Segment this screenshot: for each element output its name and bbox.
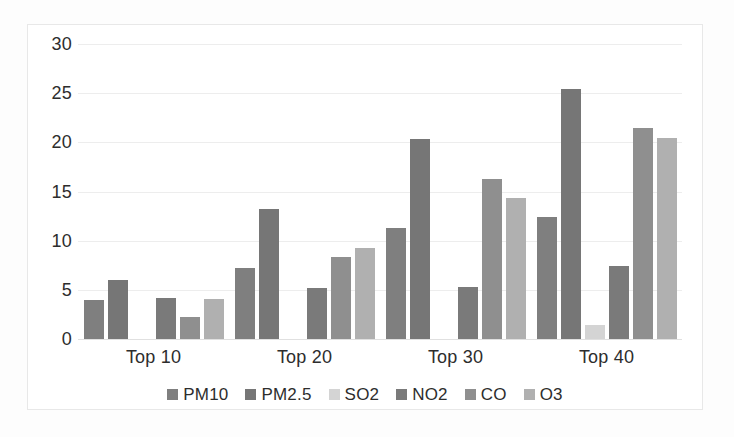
y-tick-label-10: 10 (26, 232, 72, 250)
bar-pm25-top-40 (561, 89, 581, 339)
bar-o3-top-20 (355, 248, 375, 339)
legend-item-o3[interactable]: O3 (524, 386, 563, 403)
bar-pm10-top-30 (386, 228, 406, 339)
bar-o3-top-10 (204, 299, 224, 339)
y-tick-label-0: 0 (26, 330, 72, 348)
legend-swatch-icon-pm10 (167, 389, 178, 400)
bar-no2-top-10 (156, 298, 176, 339)
legend-label: PM10 (183, 386, 228, 403)
legend-label: O3 (540, 386, 563, 403)
bar-so2-top-40 (585, 325, 605, 339)
x-axis-label-top-20: Top 20 (229, 347, 380, 368)
chart-legend: PM10PM2.5SO2NO2COO3 (27, 381, 703, 407)
bar-co-top-30 (482, 179, 502, 339)
legend-item-so2[interactable]: SO2 (329, 386, 380, 403)
x-axis-label-top-10: Top 10 (78, 347, 229, 368)
bar-o3-top-30 (506, 198, 526, 339)
y-tick-label-20: 20 (26, 133, 72, 151)
y-axis: 051015202530 (22, 44, 72, 339)
bar-group-top-30 (386, 44, 526, 339)
legend-label: NO2 (412, 386, 448, 403)
legend-item-co[interactable]: CO (465, 386, 507, 403)
y-tick-label-30: 30 (26, 35, 72, 53)
bar-co-top-10 (180, 317, 200, 339)
bar-no2-top-40 (609, 266, 629, 339)
legend-swatch-icon-co (465, 389, 476, 400)
bar-co-top-40 (633, 128, 653, 339)
bar-no2-top-30 (458, 287, 478, 339)
bar-pm10-top-10 (84, 300, 104, 339)
legend-swatch-icon-no2 (396, 389, 407, 400)
plot-area (78, 44, 682, 339)
y-tick-label-15: 15 (26, 183, 72, 201)
legend-label: CO (481, 386, 507, 403)
legend-label: SO2 (345, 386, 380, 403)
bar-pm10-top-20 (235, 268, 255, 339)
bar-pm25-top-10 (108, 280, 128, 339)
legend-swatch-icon-so2 (329, 389, 340, 400)
x-axis-label-top-40: Top 40 (531, 347, 682, 368)
bar-pm10-top-40 (537, 217, 557, 339)
x-axis-label-top-30: Top 30 (380, 347, 531, 368)
legend-swatch-icon-pm25 (245, 389, 256, 400)
y-tick-label-25: 25 (26, 84, 72, 102)
legend-swatch-icon-o3 (524, 389, 535, 400)
x-axis-labels: Top 10Top 20Top 30Top 40 (78, 347, 682, 375)
legend-label: PM2.5 (261, 386, 311, 403)
bar-pm25-top-30 (410, 139, 430, 339)
bar-pm25-top-20 (259, 209, 279, 339)
legend-item-no2[interactable]: NO2 (396, 386, 448, 403)
chart-container: 051015202530 Top 10Top 20Top 30Top 40 PM… (0, 0, 734, 437)
gridline-0 (78, 339, 682, 340)
bar-group-top-20 (235, 44, 375, 339)
legend-item-pm25[interactable]: PM2.5 (245, 386, 311, 403)
bar-group-top-10 (84, 44, 224, 339)
bar-group-top-40 (537, 44, 677, 339)
bar-o3-top-40 (657, 138, 677, 339)
y-tick-label-5: 5 (26, 281, 72, 299)
legend-item-pm10[interactable]: PM10 (167, 386, 228, 403)
bar-no2-top-20 (307, 288, 327, 339)
bar-co-top-20 (331, 257, 351, 339)
